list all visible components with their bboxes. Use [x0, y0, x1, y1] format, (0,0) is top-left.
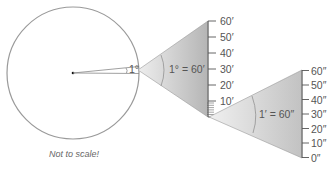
arcminute-cone-label: 1′ = 60″: [259, 108, 294, 120]
angle-arc: [126, 68, 127, 73]
svg-text:0″: 0″: [311, 152, 321, 164]
svg-text:10′: 10′: [220, 95, 234, 107]
svg-text:20′: 20′: [220, 79, 234, 91]
svg-text:40″: 40″: [311, 94, 327, 106]
svg-text:50′: 50′: [220, 31, 234, 43]
degree-cone-label: 1° = 60′: [169, 63, 205, 75]
svg-text:10″: 10″: [311, 137, 327, 149]
arcsecond-labels: 60″ 50″ 40″ 30″ 20″ 10″ 0″: [311, 65, 327, 164]
svg-text:60″: 60″: [311, 65, 327, 77]
angle-diagram: 1° 1° = 60′ 60′ 50′ 40′ 30′ 20′ 10′ 0′ 1…: [0, 0, 334, 171]
svg-text:30′: 30′: [220, 63, 234, 75]
svg-text:20″: 20″: [311, 123, 327, 135]
arcsecond-ticks: [302, 71, 309, 158]
circle-angle-label: 1°: [129, 63, 139, 75]
arcminute-ticks: [208, 21, 216, 117]
svg-text:30″: 30″: [311, 108, 327, 120]
svg-text:60′: 60′: [220, 15, 234, 27]
svg-text:40′: 40′: [220, 47, 234, 59]
svg-text:50″: 50″: [311, 79, 327, 91]
not-to-scale-note: Not to scale!: [49, 149, 99, 159]
